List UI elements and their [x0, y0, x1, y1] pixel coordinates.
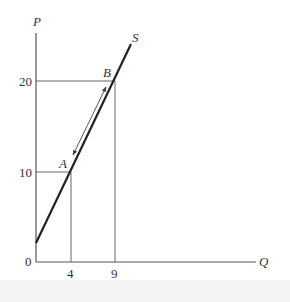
x-axis-label: Q [259, 254, 269, 269]
movement-arrow-icon [73, 87, 106, 155]
y-axis-label: P [32, 14, 41, 29]
point-label-b: B [103, 65, 111, 80]
supply-diagram: P Q 0 20 10 4 9 S B A [0, 0, 290, 302]
curve-label-s: S [132, 30, 139, 45]
y-tick-20: 20 [19, 74, 32, 89]
origin-label: 0 [25, 254, 32, 269]
x-tick-9: 9 [111, 266, 118, 281]
point-label-a: A [58, 156, 67, 171]
x-tick-4: 4 [67, 266, 74, 281]
y-tick-10: 10 [19, 165, 32, 180]
supply-curve [36, 44, 131, 243]
